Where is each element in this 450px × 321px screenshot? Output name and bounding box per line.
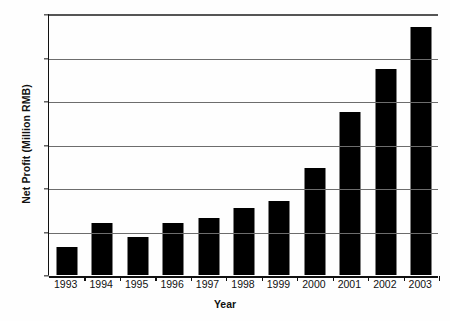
y-gridline [49,102,438,103]
y-gridline [49,146,438,147]
y-gridline [49,233,438,234]
bar [198,218,219,275]
y-tick-mark [44,275,49,276]
bar [127,237,148,275]
plot-area [48,14,438,275]
bar [56,247,77,275]
y-tick-mark [44,101,49,102]
y-gridline [49,15,438,16]
bar-chart: Net Profit (Million RMB) Year 0204060801… [0,0,450,321]
bar [411,27,432,275]
y-tick-mark [44,14,49,15]
bar [233,208,254,275]
y-axis-title: Net Profit (Million RMB) [20,34,32,254]
bar [163,223,184,275]
y-gridline [49,59,438,60]
y-tick-mark [44,232,49,233]
bar [269,201,290,275]
y-tick-mark [44,58,49,59]
bar [375,69,396,275]
bar [340,112,361,275]
bar [304,168,325,275]
x-tick-label: 2003 [398,278,442,290]
x-axis-title: Year [0,298,450,310]
bar [92,223,113,275]
y-tick-mark [44,188,49,189]
y-tick-mark [44,145,49,146]
y-gridline [49,189,438,190]
